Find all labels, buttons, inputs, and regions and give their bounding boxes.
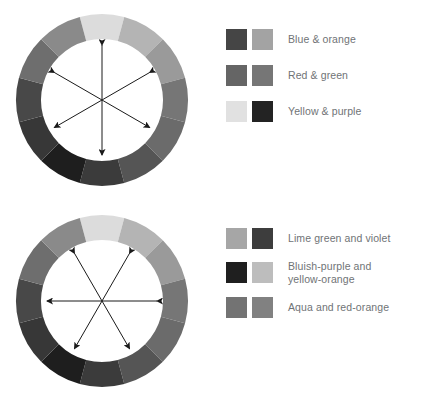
wheel-segment-red-orange: [161, 78, 188, 123]
green-swatch: [252, 65, 273, 86]
legend-row: Yellow & purple: [226, 100, 430, 122]
legend-label: Lime green and violet: [288, 232, 391, 245]
legend-swatch-pair: [226, 65, 274, 86]
wheel-segment-yellow: [80, 14, 125, 41]
aqua-swatch: [226, 297, 247, 318]
yellow-orange-swatch: [252, 262, 273, 283]
legend-label: Blue & orange: [288, 33, 356, 46]
orange-swatch: [252, 29, 273, 50]
legend-swatch-pair: [226, 297, 274, 318]
wheel-segment-yellow: [80, 215, 125, 242]
wheel-segment-violet: [80, 159, 125, 186]
yellow-swatch: [226, 101, 247, 122]
blue-swatch: [226, 29, 247, 50]
legend-1: Blue & orange Red & green Yellow & purpl…: [226, 28, 430, 136]
color-wheel-1-arrows: [54, 45, 149, 155]
red-orange-swatch: [252, 297, 273, 318]
bluish-purple-swatch: [226, 262, 247, 283]
legend-swatch-pair: [226, 29, 274, 50]
legend-label: Red & green: [288, 69, 348, 82]
complementary-color-diagram-1: Blue & orange Red & green Yellow & purpl…: [0, 0, 430, 200]
wheel-segment-red-orange: [161, 279, 188, 324]
lime-green-swatch: [226, 228, 247, 249]
legend-row: Bluish-purple and yellow-orange: [226, 260, 430, 285]
legend-2: Lime green and violet Bluish-purple and …: [226, 227, 430, 329]
color-wheel-1: [10, 8, 195, 193]
red-swatch: [226, 65, 247, 86]
color-wheel-2-arrows: [47, 253, 157, 348]
violet-swatch: [252, 228, 273, 249]
legend-row: Blue & orange: [226, 28, 430, 50]
color-wheel-2-svg: [10, 209, 195, 394]
legend-swatch-pair: [226, 228, 274, 249]
color-wheel-1-svg: [10, 8, 195, 193]
wheel-segment-violet: [80, 360, 125, 387]
legend-label: Yellow & purple: [288, 105, 362, 118]
legend-row: Lime green and violet: [226, 227, 430, 249]
purple-swatch: [252, 101, 273, 122]
wheel-segment-blue: [16, 279, 43, 324]
legend-swatch-pair: [226, 101, 274, 122]
legend-row: Aqua and red-orange: [226, 296, 430, 318]
wheel-segment-blue: [16, 78, 43, 123]
legend-label: Aqua and red-orange: [288, 301, 389, 314]
complementary-color-diagram-2: Lime green and violet Bluish-purple and …: [0, 201, 430, 401]
legend-label: Bluish-purple and yellow-orange: [288, 260, 371, 285]
legend-row: Red & green: [226, 64, 430, 86]
color-wheel-2: [10, 209, 195, 394]
legend-swatch-pair: [226, 262, 274, 283]
